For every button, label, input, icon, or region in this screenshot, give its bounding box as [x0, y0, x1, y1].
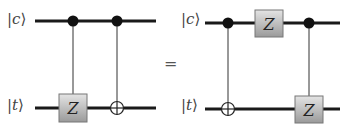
- left-controlled-z-gate: Z: [59, 16, 87, 123]
- control-dot-icon: [304, 18, 315, 29]
- circuit-identity-diagram: |c⟩ |t⟩ = |c⟩ |t⟩ Z: [0, 0, 356, 132]
- z-gate-label: Z: [66, 99, 79, 118]
- control-dot-icon: [68, 16, 79, 27]
- circuit-svg: Z: [0, 0, 356, 132]
- left-cnot-gate: [111, 16, 124, 115]
- right-controlled-z-gate: Z: [295, 18, 323, 124]
- right-z-gate-control: Z: [255, 10, 283, 37]
- right-cnot-gate: [222, 18, 235, 116]
- left-circuit: Z: [35, 16, 156, 123]
- z-gate-label: Z: [302, 101, 315, 120]
- control-dot-icon: [223, 18, 234, 29]
- z-gate-label: Z: [262, 15, 275, 34]
- control-dot-icon: [112, 16, 123, 27]
- right-circuit: Z Z: [205, 10, 340, 123]
